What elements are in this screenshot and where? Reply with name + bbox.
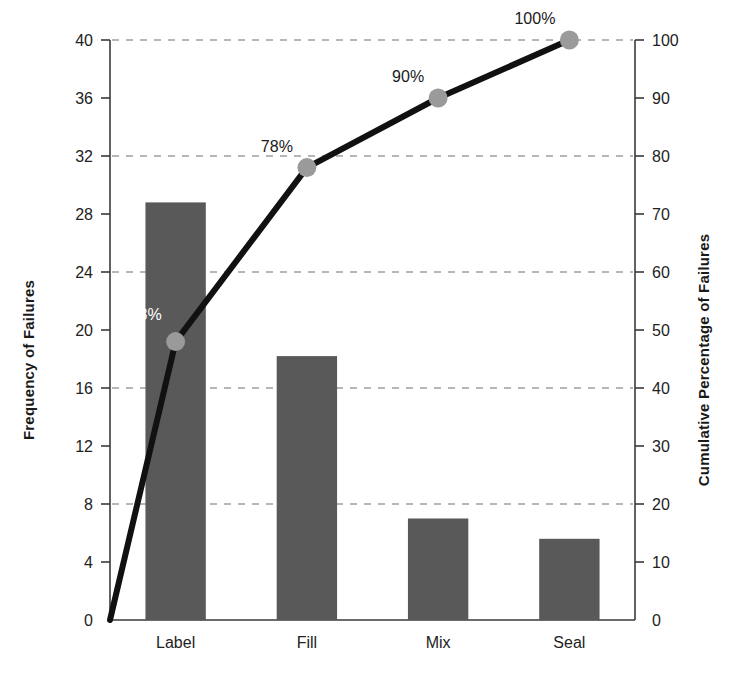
data-point-label: 48% xyxy=(130,306,162,323)
right-axis-tick-label: 40 xyxy=(652,380,670,397)
left-axis-tick-label: 8 xyxy=(84,496,93,513)
left-axis-tick-label: 0 xyxy=(84,612,93,629)
category-label: Fill xyxy=(297,634,317,651)
left-axis-tick-label: 28 xyxy=(75,206,93,223)
bar xyxy=(145,202,205,620)
data-point-label: 78% xyxy=(261,138,293,155)
right-axis-title: Cumulative Percentage of Failures xyxy=(695,234,712,487)
right-axis-tick-label: 50 xyxy=(652,322,670,339)
left-axis-tick-label: 24 xyxy=(75,264,93,281)
left-axis-tick-label: 36 xyxy=(75,90,93,107)
chart-canvas: 0481216202428323640 01020304050607080901… xyxy=(0,0,737,684)
data-point-marker xyxy=(560,31,579,50)
data-point-marker xyxy=(166,332,185,351)
data-point-marker xyxy=(429,89,448,108)
right-axis-tick-label: 60 xyxy=(652,264,670,281)
pareto-chart: 0481216202428323640 01020304050607080901… xyxy=(0,0,737,684)
data-point-marker xyxy=(297,158,316,177)
category-label: Seal xyxy=(553,634,585,651)
data-point-label: 100% xyxy=(514,10,555,27)
bar xyxy=(277,356,337,620)
right-axis-tick-label: 20 xyxy=(652,496,670,513)
left-axis-tick-label: 4 xyxy=(84,554,93,571)
bar xyxy=(539,539,599,620)
right-axis-tick-label: 90 xyxy=(652,90,670,107)
data-point-label: 90% xyxy=(392,68,424,85)
left-axis-title: Frequency of Failures xyxy=(20,280,37,440)
left-axis-tick-label: 20 xyxy=(75,322,93,339)
right-axis-tick-label: 70 xyxy=(652,206,670,223)
left-axis-tick-label: 12 xyxy=(75,438,93,455)
bar xyxy=(408,519,468,621)
right-axis-tick-label: 100 xyxy=(652,32,679,49)
category-label: Mix xyxy=(426,634,451,651)
left-axis-tick-label: 16 xyxy=(75,380,93,397)
left-axis-tick-label: 40 xyxy=(75,32,93,49)
right-axis-tick-label: 80 xyxy=(652,148,670,165)
right-axis-tick-label: 10 xyxy=(652,554,670,571)
right-axis-tick-label: 0 xyxy=(652,612,661,629)
left-axis-tick-label: 32 xyxy=(75,148,93,165)
category-label: Label xyxy=(156,634,195,651)
right-axis-tick-label: 30 xyxy=(652,438,670,455)
